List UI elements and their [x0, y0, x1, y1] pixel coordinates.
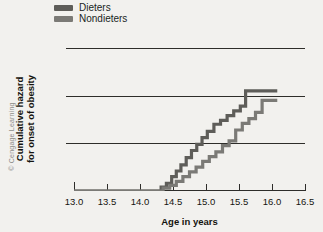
x-tick-label: 16.5 — [288, 196, 322, 207]
x-axis-title: Age in years — [74, 216, 305, 227]
legend-item-dieters: Dieters — [54, 2, 127, 13]
legend-label-dieters: Dieters — [79, 2, 111, 13]
x-tick-label: 16.0 — [255, 196, 289, 207]
y-tick-leader — [66, 96, 74, 97]
y-tick-leader — [66, 143, 74, 144]
y-axis-title-line1: Cumulative hazard — [14, 59, 25, 179]
y-axis-title: Cumulative hazard for onset of obesity — [14, 59, 36, 179]
x-tick-label: 13.0 — [57, 196, 91, 207]
y-tick-leader — [66, 48, 74, 49]
y-axis-title-line2: for onset of obesity — [25, 59, 36, 179]
legend-label-nondieters: Nondieters — [79, 13, 127, 24]
x-tick-label: 14.0 — [123, 196, 157, 207]
series-line-dieters — [74, 91, 277, 191]
step-curves — [74, 48, 305, 191]
chart-legend: Dieters Nondieters — [54, 2, 127, 24]
x-tick-label: 15.0 — [189, 196, 223, 207]
legend-swatch-nondieters — [54, 16, 73, 22]
x-tick-mark — [305, 184, 306, 191]
plot-area: 0.000.100.200.30 — [74, 48, 305, 191]
x-tick-label: 14.5 — [156, 196, 190, 207]
x-tick-label: 13.5 — [90, 196, 124, 207]
chart-figure: © Cengage Learning Dieters Nondieters Cu… — [0, 0, 323, 232]
legend-swatch-dieters — [54, 5, 73, 11]
legend-item-nondieters: Nondieters — [54, 13, 127, 24]
x-tick-label: 15.5 — [222, 196, 256, 207]
